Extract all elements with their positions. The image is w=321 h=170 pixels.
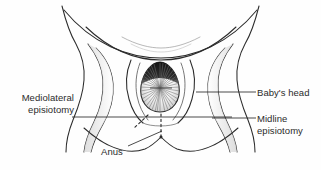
pubic-crease — [122, 37, 200, 48]
leader-anus — [128, 131, 162, 146]
mons-pubis-arc — [86, 27, 236, 60]
label-mediolateral-line-1: Mediolateral — [8, 92, 74, 104]
right-labium-outer — [178, 60, 194, 123]
anatomy-drawing — [0, 0, 321, 170]
babys-head-crowning — [140, 61, 180, 113]
label-midline-line-1: Midline — [257, 113, 303, 125]
label-mediolateral-line-2: episiotomy — [8, 104, 74, 116]
label-anus: Anus — [101, 146, 123, 158]
left-thigh-shading — [84, 44, 113, 152]
episiotomy-diagram: Mediolateral episiotomy Baby's head Midl… — [0, 0, 321, 170]
label-babys-head: Baby's head — [257, 87, 310, 99]
label-midline-line-2: episiotomy — [257, 125, 303, 137]
label-mediolateral-episiotomy: Mediolateral episiotomy — [8, 92, 74, 115]
label-midline-episiotomy: Midline episiotomy — [257, 113, 303, 136]
right-thigh-shading — [208, 44, 237, 152]
